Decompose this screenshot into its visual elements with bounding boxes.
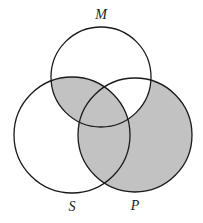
- circle-label-p: P: [78, 199, 192, 213]
- venn-diagram-figure: M S P: [0, 0, 203, 223]
- venn-diagram-canvas: [0, 0, 203, 223]
- shaded-regions: [0, 0, 203, 223]
- region-s-and-m-and-p-shading: [0, 0, 203, 223]
- circle-label-m: M: [51, 8, 151, 22]
